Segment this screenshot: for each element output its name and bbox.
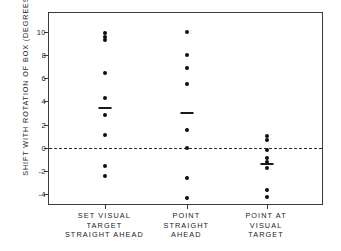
data-point bbox=[103, 31, 107, 35]
data-point bbox=[103, 96, 107, 100]
data-point bbox=[185, 66, 189, 70]
y-tick-label: -2 bbox=[38, 167, 46, 176]
x-axis-label-line: STRAIGHT bbox=[163, 221, 209, 231]
y-tick-label: 2 bbox=[41, 120, 46, 129]
y-axis-title: SHIFT WITH ROTATION OF BOX (DEGREES) bbox=[21, 0, 30, 192]
x-axis-label-line: POINT AT bbox=[245, 211, 286, 221]
x-axis-label-0: SET VISUALTARGETSTRAIGHT AHEAD bbox=[65, 211, 144, 240]
data-point bbox=[185, 146, 189, 150]
y-tick-label: 6 bbox=[41, 74, 46, 83]
data-point bbox=[103, 38, 107, 42]
x-axis-label-line: TARGET bbox=[245, 230, 286, 240]
data-point bbox=[185, 176, 189, 180]
x-tick-mark-2 bbox=[267, 204, 268, 209]
y-tick-label: 10 bbox=[37, 27, 46, 36]
x-tick-mark-1 bbox=[187, 204, 188, 209]
data-point bbox=[265, 138, 269, 142]
x-axis-label-line: STRAIGHT AHEAD bbox=[65, 230, 144, 240]
x-axis-label-line: POINT bbox=[163, 211, 209, 221]
y-tick-label: -4 bbox=[38, 190, 46, 199]
x-axis-label-line: VISUAL bbox=[245, 221, 286, 231]
x-axis-label-line: TARGET bbox=[65, 221, 144, 231]
data-point bbox=[185, 82, 189, 86]
data-point bbox=[265, 148, 269, 152]
x-axis-label-line: SET VISUAL bbox=[65, 211, 144, 221]
x-tick-mark-0 bbox=[105, 204, 106, 209]
data-point bbox=[103, 174, 107, 178]
data-point bbox=[185, 53, 189, 57]
data-point bbox=[103, 71, 107, 75]
data-point bbox=[185, 196, 189, 200]
mean-marker bbox=[181, 112, 194, 114]
data-point bbox=[103, 164, 107, 168]
y-tick-label: 4 bbox=[41, 97, 46, 106]
scatter-plot-figure: SHIFT WITH ROTATION OF BOX (DEGREES) 108… bbox=[0, 0, 341, 251]
mean-marker bbox=[261, 163, 274, 165]
x-axis-label-line: AHEAD bbox=[163, 230, 209, 240]
x-axis-label-1: POINTSTRAIGHTAHEAD bbox=[163, 211, 209, 240]
data-point bbox=[103, 133, 107, 137]
data-point bbox=[265, 195, 269, 199]
data-point bbox=[265, 166, 269, 170]
data-point bbox=[185, 30, 189, 34]
data-point bbox=[185, 128, 189, 132]
y-tick-label: 0 bbox=[41, 143, 46, 152]
data-point bbox=[265, 188, 269, 192]
x-axis-label-2: POINT ATVISUALTARGET bbox=[245, 211, 286, 240]
y-tick-label: 8 bbox=[41, 50, 46, 59]
plot-area: 1086420-2-4 bbox=[48, 12, 323, 205]
mean-marker bbox=[99, 107, 112, 109]
data-point bbox=[103, 113, 107, 117]
